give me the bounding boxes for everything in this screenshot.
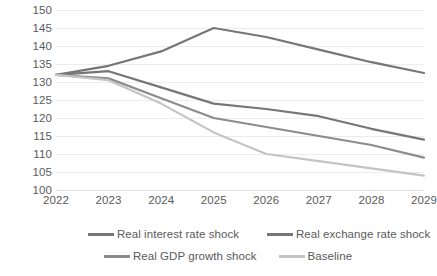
legend-row-2: Real GDP growth shock Baseline — [104, 248, 352, 264]
legend-row-1: Real interest rate shock Real exchange r… — [88, 226, 430, 242]
y-axis-tick-label: 150 — [14, 5, 52, 17]
legend-label: Real GDP growth shock — [133, 250, 257, 263]
series-line — [56, 75, 424, 158]
x-axis: 20222023202420252026202720282029 — [56, 194, 424, 210]
x-axis-tick-label: 2028 — [358, 194, 384, 207]
y-axis-tick-label: 135 — [14, 59, 52, 71]
legend-item-real-gdp-growth-shock[interactable]: Real GDP growth shock — [104, 250, 257, 263]
legend-item-real-exchange-rate-shock[interactable]: Real exchange rate shock — [267, 228, 430, 241]
x-axis-tick-label: 2023 — [96, 194, 122, 207]
plot-area: 150145140135130125120115110105100 202220… — [0, 0, 432, 212]
legend-label: Real interest rate shock — [117, 228, 239, 241]
gridlines-and-series — [56, 10, 424, 190]
x-axis-tick-label: 2024 — [148, 194, 174, 207]
series-lines — [56, 10, 424, 190]
y-axis-tick-label: 125 — [14, 95, 52, 107]
legend-swatch-icon — [104, 255, 130, 258]
legend-swatch-icon — [88, 233, 114, 236]
legend-item-baseline[interactable]: Baseline — [279, 250, 353, 263]
x-axis-tick-label: 2026 — [253, 194, 279, 207]
legend-swatch-icon — [279, 255, 305, 258]
legend-label: Real exchange rate shock — [296, 228, 430, 241]
y-axis-tick-label: 140 — [14, 41, 52, 53]
series-line — [56, 75, 424, 176]
gridline — [56, 190, 424, 191]
chart-legend: Real interest rate shock Real exchange r… — [0, 222, 432, 274]
y-axis-tick-label: 145 — [14, 23, 52, 35]
y-axis-tick-label: 110 — [14, 149, 52, 161]
legend-item-real-interest-rate-shock[interactable]: Real interest rate shock — [88, 228, 239, 241]
y-axis: 150145140135130125120115110105100 — [14, 10, 52, 190]
legend-label: Baseline — [308, 250, 353, 263]
y-axis-tick-label: 105 — [14, 167, 52, 179]
x-axis-tick-label: 2027 — [306, 194, 332, 207]
x-axis-tick-label: 2029 — [411, 194, 437, 207]
y-axis-tick-label: 115 — [14, 131, 52, 143]
legend-swatch-icon — [267, 233, 293, 236]
y-axis-tick-label: 130 — [14, 77, 52, 89]
x-axis-tick-label: 2022 — [43, 194, 69, 207]
series-line — [56, 28, 424, 75]
y-axis-tick-label: 120 — [14, 113, 52, 125]
x-axis-tick-label: 2025 — [201, 194, 227, 207]
